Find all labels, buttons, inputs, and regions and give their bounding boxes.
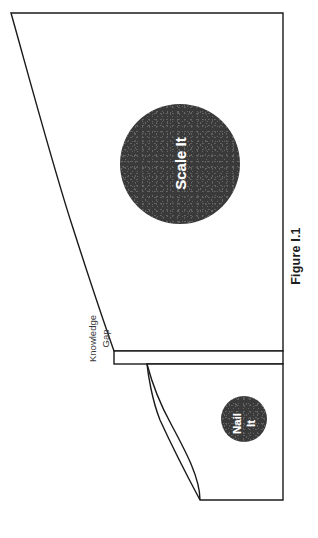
scale-it-circle[interactable] [120, 104, 240, 224]
nail-it-circle[interactable] [221, 396, 267, 442]
figure-line-art [0, 0, 318, 538]
knowledge-gap-band [114, 351, 283, 364]
figure-canvas: Scale It NailIt KnowledgeGap Figure I.1 [0, 0, 318, 538]
